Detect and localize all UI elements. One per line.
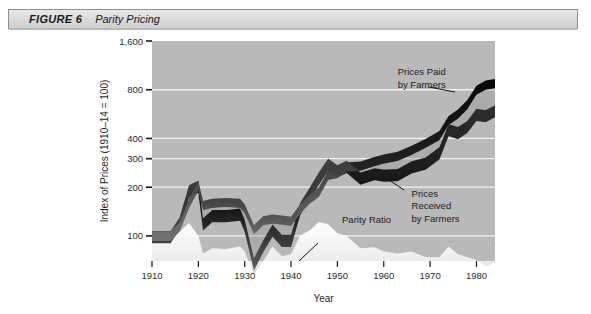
figure-number: FIGURE 6 — [29, 13, 82, 25]
y-axis-tick-labels: 1002003004008001,600 — [119, 36, 143, 242]
y-tick-label: 200 — [127, 182, 143, 193]
y-tick-label: 100 — [127, 230, 143, 241]
parity-pricing-chart: 1002003004008001,600 1910192019301940195… — [0, 30, 591, 314]
figure-container: FIGURE 6 Parity Pricing 1002003004008001… — [0, 0, 591, 314]
y-axis-title: Index of Prices (1910–14 = 100) — [99, 80, 110, 223]
x-tick-label: 1970 — [420, 270, 441, 281]
annotation-prices-received: by Farmers — [412, 213, 460, 224]
figure-caption-bar: FIGURE 6 Parity Pricing — [8, 9, 578, 29]
x-tick-label: 1980 — [466, 270, 487, 281]
x-axis-title: Year — [313, 293, 334, 304]
y-tick-label: 1,600 — [119, 36, 143, 47]
annotation-prices-paid: by Farmers — [398, 79, 446, 90]
y-tick-label: 800 — [127, 84, 143, 95]
x-axis-tick-labels: 19101920193019401950196019701980 — [141, 270, 487, 281]
annotation-prices-paid: Prices Paid — [398, 66, 446, 77]
figure-title: Parity Pricing — [95, 13, 160, 25]
y-tick-label: 300 — [127, 153, 143, 164]
annotation-prices-received: Prices — [412, 188, 439, 199]
annotation-prices-received: Received — [412, 200, 452, 211]
x-tick-label: 1920 — [188, 270, 209, 281]
y-tick-label: 400 — [127, 133, 143, 144]
x-tick-label: 1960 — [373, 270, 394, 281]
x-tick-label: 1940 — [280, 270, 301, 281]
x-tick-label: 1910 — [141, 270, 162, 281]
x-tick-label: 1930 — [234, 270, 255, 281]
x-tick-label: 1950 — [327, 270, 348, 281]
annotation-parity-ratio: Parity Ratio — [342, 214, 391, 225]
